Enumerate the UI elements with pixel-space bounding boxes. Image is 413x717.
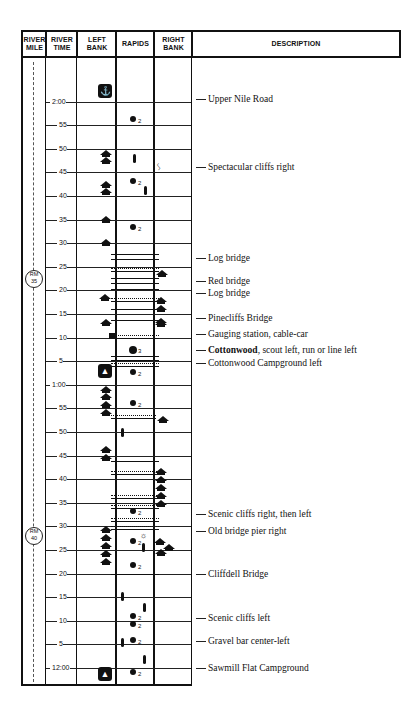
header-rapids-label: RAPIDS: [122, 40, 149, 48]
column-border: [21, 58, 23, 685]
river-mile-marker: RM 35: [25, 270, 43, 288]
bridge-line: [111, 574, 159, 575]
time-tick-label: 30: [57, 239, 67, 246]
time-gridline: [46, 385, 191, 386]
time-gridline: [46, 479, 191, 480]
road-line: [115, 102, 155, 103]
description-entry: Upper Nile Road: [196, 94, 273, 104]
header-description-label: DESCRIPTION: [272, 40, 321, 48]
bridge-line: [111, 289, 159, 290]
rapid-class-label: 2: [138, 180, 141, 186]
tree-icon: [100, 216, 112, 224]
bridge-line: [111, 254, 159, 255]
pier-icon: ☼: [140, 531, 147, 540]
time-tick-label: 45: [57, 168, 67, 175]
header-left-bank: LEFT BANK: [76, 30, 116, 58]
tree-icon: [155, 549, 167, 557]
riffle-mark: [143, 655, 146, 664]
cable-line: [111, 471, 159, 475]
time-gridline: [46, 149, 191, 150]
time-tick-label: 40: [57, 475, 67, 482]
description-text: Log bridge: [208, 288, 250, 298]
cable-line: [111, 335, 159, 339]
campground-icon: ▲: [98, 364, 112, 378]
time-gridline: [46, 172, 191, 173]
time-tick-label: 1:00: [50, 381, 66, 388]
header-river-mile: RIVER MILE: [21, 30, 46, 58]
anchor-glyph: ⚓: [100, 86, 111, 96]
rapid-class-label: 2: [138, 540, 141, 546]
leader-dash: [196, 574, 206, 575]
river-mile-dashed-line: [33, 62, 34, 682]
time-tick-label: 5: [57, 357, 63, 364]
rapid-class-label: 2: [138, 510, 141, 516]
description-entry: Spectacular cliffs right: [196, 162, 294, 172]
leader-dash: [196, 258, 206, 259]
rapid-class-label: 2: [138, 226, 141, 232]
tree-icon: [100, 550, 112, 558]
river-mile-marker: RM 40: [25, 527, 43, 545]
riffle-mark: [133, 154, 136, 163]
time-tick-label: 40: [57, 192, 67, 199]
leader-dash: [196, 350, 206, 351]
cable-line: [111, 363, 159, 367]
description-text: , scout left, run or line left: [258, 345, 357, 355]
rapid-rating-dot: [130, 613, 136, 619]
leader-dash: [196, 167, 206, 168]
tree-icon: [155, 476, 167, 484]
header-left-bank-label: LEFT BANK: [78, 36, 116, 52]
cable-line: [111, 415, 156, 419]
description-text: Gravel bar center-left: [208, 636, 290, 646]
cable-line: [111, 505, 159, 509]
rapid-class-label: 2: [138, 623, 141, 629]
bridge-line: [111, 320, 159, 321]
campground-icon: ▲: [98, 667, 112, 681]
leader-dash: [196, 281, 206, 282]
description-text: Cottonwood Campground left: [208, 358, 322, 368]
leader-dash: [196, 334, 206, 335]
leader-dash: [196, 668, 206, 669]
leader-dash: [196, 99, 206, 100]
leader-dash: [196, 618, 206, 619]
time-gridline: [46, 432, 191, 433]
description-text: Red bridge: [208, 276, 250, 286]
rapid-class-label: 2: [138, 371, 141, 377]
leader-dash: [196, 363, 206, 364]
campground-glyph: ▲: [101, 366, 110, 376]
time-gridline: [46, 243, 191, 244]
time-gridline: [46, 314, 191, 315]
description-text: Sawmill Flat Campground: [208, 663, 309, 673]
rapid-class-label: 3: [138, 348, 141, 354]
header-right-bank: RIGHT BANK: [153, 30, 192, 58]
campground-glyph: ▲: [101, 669, 110, 679]
column-border: [45, 58, 46, 685]
header-right-bank-label: RIGHT BANK: [155, 36, 192, 52]
time-gridline: [46, 361, 191, 362]
tree-icon: [100, 393, 112, 401]
time-gridline: [46, 408, 191, 409]
cable-line: [111, 495, 159, 499]
time-tick-label: 12:00: [50, 664, 70, 671]
riffle-mark: [143, 603, 146, 612]
time-tick-label: 15: [57, 310, 67, 317]
time-gridline: [46, 220, 191, 221]
time-tick-label: 15: [57, 593, 67, 600]
time-tick-label: 25: [57, 546, 67, 553]
tree-icon: [100, 239, 112, 247]
cable-line: [111, 518, 159, 522]
time-gridline: [46, 196, 191, 197]
riffle-mark: [121, 638, 124, 647]
gauging-station-icon: [109, 333, 115, 339]
rapid-rating-dot: [129, 346, 137, 354]
description-text: Upper Nile Road: [208, 94, 273, 104]
leader-dash: [196, 531, 206, 532]
cable-line: [111, 298, 159, 302]
tree-icon: [100, 157, 112, 165]
time-tick-label: 10: [57, 617, 67, 624]
description-entry: Red bridge: [196, 276, 250, 286]
time-tick-label: 50: [57, 145, 67, 152]
description-entry: Log bridge: [196, 288, 250, 298]
bridge-line: [111, 360, 159, 361]
rapid-class-label: 2: [138, 564, 141, 570]
header-river-time: RIVER TIME: [45, 30, 77, 58]
